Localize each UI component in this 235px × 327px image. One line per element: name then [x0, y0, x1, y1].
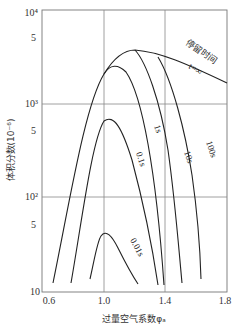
curve-0.1s — [71, 119, 158, 285]
label-100s: 100s — [204, 140, 219, 160]
label-0.01s: 0.01s — [128, 236, 146, 258]
y-tick-10: 10 — [30, 286, 40, 297]
y-tick-1000: 10³ — [25, 98, 38, 109]
x-tick-1.0: 1.0 — [98, 295, 111, 306]
curve-100s — [158, 57, 201, 279]
x-tick-0.6: 0.6 — [43, 295, 56, 306]
chart-canvas: 10⁴ 5 10³ 5 10² 5 10 0.6 1.0 1.4 1.8 过量空… — [0, 0, 235, 327]
y-tick-100: 10² — [25, 191, 38, 202]
y-tick-500: 5 — [31, 125, 36, 136]
label-t-infinity: t=∞ — [187, 61, 204, 77]
label-0.1s: 0.1s — [134, 151, 148, 169]
label-1s: 1s — [152, 124, 164, 135]
x-tick-1.4: 1.4 — [159, 295, 172, 306]
label-10s: 10s — [182, 150, 196, 165]
x-axis-label: 过量空气系数φₐ — [102, 313, 165, 324]
y-axis-label: 体积分数(10⁻⁶) — [5, 119, 16, 182]
y-tick-5000: 5 — [31, 32, 36, 43]
y-tick-10000: 10⁴ — [25, 7, 39, 18]
legend-title: 停留时间 — [184, 37, 220, 67]
curve-1s — [104, 66, 164, 285]
x-tick-1.8: 1.8 — [219, 295, 232, 306]
y-tick-50: 5 — [31, 219, 36, 230]
